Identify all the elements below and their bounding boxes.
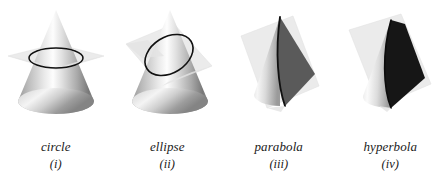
panel-ellipse: ellipse (ii) (112, 0, 224, 186)
caption-numeral-ellipse: (ii) (112, 157, 224, 172)
caption-numeral-circle: (i) (0, 157, 112, 172)
conic-region-hyperbola (384, 20, 424, 108)
panel-parabola: parabola (iii) (223, 0, 335, 186)
cone-diagram-circle (0, 0, 112, 138)
conic-sections-figure: circle (i) (0, 0, 446, 186)
cone-base (18, 88, 94, 114)
cone-base (132, 88, 208, 114)
caption-label-ellipse: ellipse (112, 139, 224, 155)
caption-label-parabola: parabola (223, 139, 335, 155)
caption-numeral-parabola: (iii) (223, 157, 335, 172)
cone-diagram-ellipse (112, 0, 224, 138)
panel-circle: circle (i) (0, 0, 112, 186)
cone-diagram-parabola (223, 0, 335, 138)
caption-label-hyperbola: hyperbola (335, 139, 446, 155)
cone-diagram-hyperbola (335, 0, 446, 138)
caption-label-circle: circle (0, 139, 112, 155)
panel-hyperbola: hyperbola (iv) (335, 0, 446, 186)
caption-numeral-hyperbola: (iv) (335, 157, 446, 172)
